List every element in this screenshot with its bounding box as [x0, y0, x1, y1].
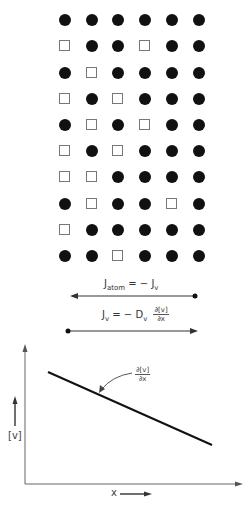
y-axis-label: [v]	[8, 430, 22, 441]
x-axis-label: x	[111, 487, 117, 498]
slope-pointer-arrow-icon	[99, 373, 132, 393]
concentration-gradient-line	[48, 372, 212, 445]
vacancy-flux-arrow-icon	[66, 328, 199, 334]
diagram-lines	[0, 0, 250, 507]
graph-axes	[23, 344, 244, 487]
concentration-up-arrow-icon	[13, 396, 18, 426]
slope-numerator: ∂[v]	[135, 366, 150, 375]
slope-denominator: ∂x	[135, 375, 150, 383]
slope-label: ∂[v] ∂x	[135, 366, 150, 383]
distance-right-arrow-icon	[120, 492, 152, 497]
atom-flux-arrow-icon	[70, 293, 198, 299]
